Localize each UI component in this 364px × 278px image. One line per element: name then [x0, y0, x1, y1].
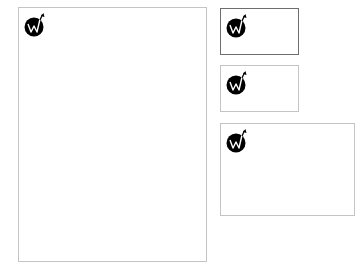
layout-card-large[interactable]: [18, 7, 207, 262]
w-growth-arrow-logo-icon: [226, 71, 248, 95]
layout-card-medium[interactable]: [220, 123, 355, 216]
w-growth-arrow-logo-icon: [24, 13, 46, 37]
w-growth-arrow-logo-icon: [226, 14, 248, 38]
w-growth-arrow-logo-icon: [226, 129, 248, 153]
layout-card-small-2[interactable]: [220, 65, 299, 112]
layout-card-small-1[interactable]: [220, 8, 299, 55]
